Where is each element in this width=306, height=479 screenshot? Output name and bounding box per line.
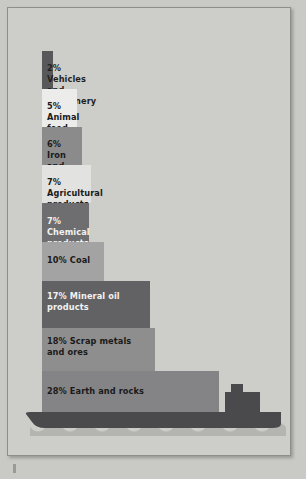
bar-mineral-oil-products: 17% Mineral oil products: [42, 281, 150, 328]
bar-label-scrap-metals-and-ores: 18% Scrap metals and ores: [47, 336, 131, 358]
bar-coal: 10% Coal: [42, 242, 104, 281]
bar-animal-feed-and-food: 5% Animal feed and food: [42, 89, 77, 127]
corner-tick-mark: [13, 464, 16, 473]
bar-chemical-products: 7% Chemical products: [42, 203, 89, 242]
water-waves-group: [30, 423, 286, 437]
bar-label-coal: 10% Coal: [47, 255, 90, 266]
bar-label-mineral-oil-products: 17% Mineral oil products: [47, 291, 120, 313]
bar-vehicles-and-machinery: 2% Vehicles and machinery: [42, 51, 53, 89]
chart-figure: 2% Vehicles and machinery 5% Animal feed…: [0, 0, 306, 479]
bar-agricultural-products: 7% Agricultural products: [42, 165, 91, 203]
bar-label-earth-and-rocks: 28% Earth and rocks: [47, 386, 144, 397]
bar-earth-and-rocks: 28% Earth and rocks: [42, 371, 219, 412]
bar-scrap-metals-and-ores: 18% Scrap metals and ores: [42, 328, 155, 371]
bar-iron-and-steel: 6% Iron and steel: [42, 127, 82, 165]
